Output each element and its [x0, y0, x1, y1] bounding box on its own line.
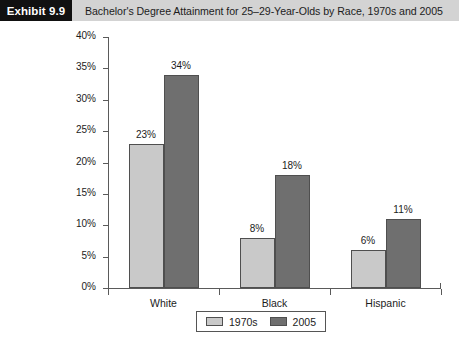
bar[interactable]: 23% — [129, 144, 164, 288]
y-axis-tick-label: 40% — [0, 30, 96, 41]
y-axis-tick-mark — [103, 257, 109, 258]
x-axis-tick-mark — [330, 289, 331, 295]
y-axis-tick-mark — [103, 163, 109, 164]
bar-value-label: 8% — [250, 223, 264, 234]
y-axis-tick-mark — [103, 68, 109, 69]
y-axis-tick-label: 15% — [0, 187, 96, 198]
y-axis-tick-label: 20% — [0, 156, 96, 167]
y-axis-tick-label: 5% — [0, 250, 96, 261]
y-axis-tick-label: 0% — [0, 281, 96, 292]
x-axis-tick-mark — [108, 289, 109, 295]
x-axis-category-label: White — [150, 297, 177, 309]
bar-group: 23%34% — [129, 37, 199, 288]
y-axis-tick-mark — [103, 37, 109, 38]
bar[interactable]: 34% — [164, 75, 199, 288]
y-axis-tick-label: 35% — [0, 61, 96, 72]
exhibit-number-tag: Exhibit 9.9 — [0, 0, 72, 21]
exhibit-title: Bachelor's Degree Attainment for 25–29-Y… — [72, 0, 459, 21]
legend-swatch-2005 — [270, 317, 287, 326]
y-axis-tick-label: 25% — [0, 124, 96, 135]
y-axis-tick-mark — [103, 100, 109, 101]
bar[interactable]: 8% — [240, 238, 275, 288]
chart-container: 0%5%10%15%20%25%30%35%40% 23%34%8%18%6%1… — [0, 21, 459, 352]
bar[interactable]: 6% — [351, 250, 386, 288]
legend-item-2005: 2005 — [270, 316, 316, 328]
bar-value-label: 11% — [393, 204, 412, 215]
bar-value-label: 34% — [171, 60, 191, 71]
y-axis-tick-label: 10% — [0, 218, 96, 229]
y-axis-tick-mark — [103, 131, 109, 132]
legend-label-2005: 2005 — [293, 316, 316, 328]
legend-label-1970s: 1970s — [229, 316, 258, 328]
bar-group: 8%18% — [240, 37, 310, 288]
x-axis-line — [108, 288, 441, 289]
chart-legend: 1970s 2005 — [196, 311, 326, 332]
bar[interactable]: 18% — [275, 175, 310, 288]
x-axis-tick-mark — [219, 289, 220, 295]
y-axis-tick-label: 30% — [0, 93, 96, 104]
exhibit-header: Exhibit 9.9 Bachelor's Degree Attainment… — [0, 0, 459, 21]
bar-group: 6%11% — [351, 37, 421, 288]
x-axis-tick-mark — [441, 289, 442, 295]
bar-value-label: 6% — [361, 235, 375, 246]
bar[interactable]: 11% — [386, 219, 421, 288]
y-axis-tick-mark — [103, 225, 109, 226]
x-axis-category-label: Hispanic — [365, 297, 405, 309]
legend-swatch-1970s — [206, 317, 223, 326]
bar-value-label: 18% — [282, 160, 302, 171]
x-axis-category-label: Black — [262, 297, 288, 309]
bar-value-label: 23% — [136, 129, 156, 140]
legend-item-1970s: 1970s — [206, 316, 258, 328]
y-axis-tick-mark — [103, 194, 109, 195]
